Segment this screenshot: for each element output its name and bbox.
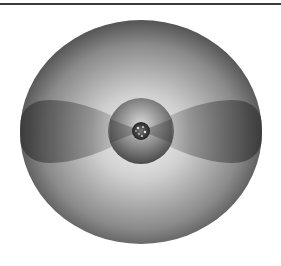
sphere-lobe-diagram [0, 0, 281, 266]
core [132, 122, 150, 140]
